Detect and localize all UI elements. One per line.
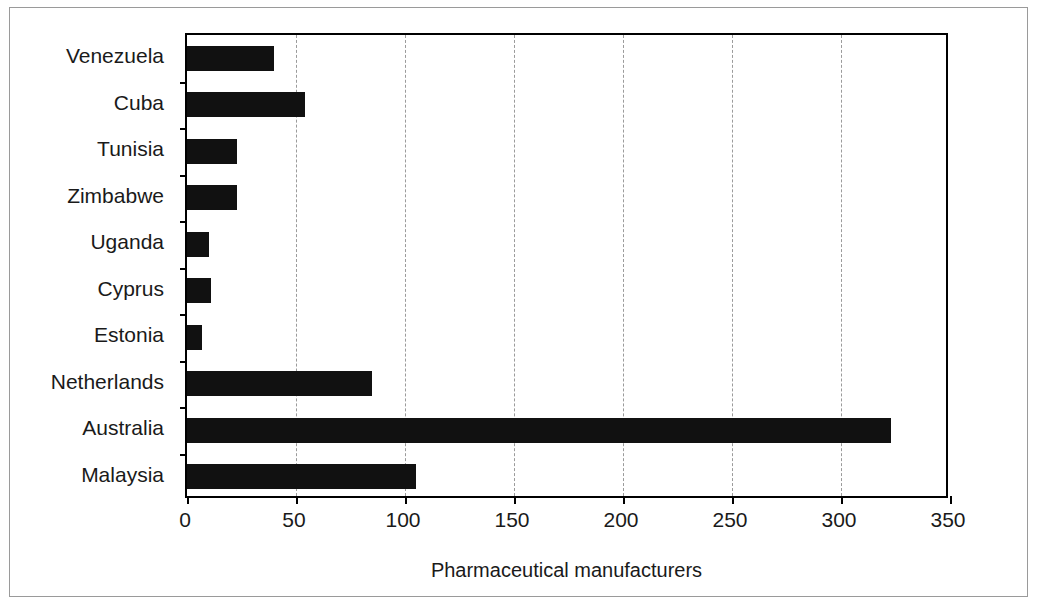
y-axis-label-tunisia: Tunisia — [97, 138, 164, 159]
y-axis-label-estonia: Estonia — [94, 324, 164, 345]
y-tick-mark-8 — [180, 407, 187, 409]
y-axis-label-uganda: Uganda — [90, 231, 164, 252]
bar-estonia — [187, 325, 202, 350]
x-tick-label-300: 300 — [821, 508, 856, 532]
bar-australia — [187, 418, 891, 443]
x-tick-label-50: 50 — [282, 508, 305, 532]
bar-malaysia — [187, 464, 416, 489]
x-tick-mark-300 — [841, 496, 843, 504]
bar-row — [187, 278, 946, 303]
x-tick-mark-350 — [950, 496, 952, 504]
y-tick-mark-6 — [180, 314, 187, 316]
x-tick-label-0: 0 — [179, 508, 191, 532]
y-axis-label-cuba: Cuba — [114, 92, 164, 113]
bar-zimbabwe — [187, 185, 237, 210]
bar-uganda — [187, 232, 209, 257]
x-tick-mark-200 — [623, 496, 625, 504]
y-tick-mark-3 — [180, 175, 187, 177]
y-tick-mark-1 — [180, 82, 187, 84]
x-tick-mark-0 — [187, 496, 189, 504]
x-tick-mark-150 — [514, 496, 516, 504]
x-tick-label-150: 150 — [494, 508, 529, 532]
x-tick-label-200: 200 — [603, 508, 638, 532]
y-axis-label-zimbabwe: Zimbabwe — [67, 185, 164, 206]
bar-netherlands — [187, 371, 372, 396]
x-tick-label-100: 100 — [385, 508, 420, 532]
y-tick-mark-9 — [180, 454, 187, 456]
x-tick-label-350: 350 — [930, 508, 965, 532]
x-axis-tick-labels: 050100150200250300350 — [185, 508, 948, 538]
x-tick-mark-50 — [296, 496, 298, 504]
bar-tunisia — [187, 139, 237, 164]
x-tick-label-250: 250 — [712, 508, 747, 532]
bar-venezuela — [187, 46, 274, 71]
bar-row — [187, 185, 946, 210]
y-axis-category-labels: VenezuelaCubaTunisiaZimbabweUgandaCyprus… — [0, 33, 176, 498]
bar-cyprus — [187, 278, 211, 303]
y-axis-label-australia: Australia — [82, 417, 164, 438]
y-tick-mark-4 — [180, 221, 187, 223]
bar-row — [187, 139, 946, 164]
x-axis-title: Pharmaceutical manufacturers — [185, 558, 948, 582]
y-axis-label-venezuela: Venezuela — [66, 45, 164, 66]
bar-row — [187, 371, 946, 396]
bar-row — [187, 464, 946, 489]
y-tick-mark-2 — [180, 128, 187, 130]
y-axis-label-cyprus: Cyprus — [97, 278, 164, 299]
x-tick-mark-250 — [732, 496, 734, 504]
bar-row — [187, 418, 946, 443]
y-tick-mark-7 — [180, 361, 187, 363]
y-axis-label-netherlands: Netherlands — [51, 371, 164, 392]
plot-area — [185, 33, 948, 498]
bar-row — [187, 46, 946, 71]
bar-row — [187, 325, 946, 350]
bar-series — [187, 35, 946, 496]
y-axis-label-malaysia: Malaysia — [81, 464, 164, 485]
bar-row — [187, 92, 946, 117]
x-tick-mark-100 — [405, 496, 407, 504]
y-tick-mark-5 — [180, 268, 187, 270]
bar-row — [187, 232, 946, 257]
bar-cuba — [187, 92, 305, 117]
chart-figure: VenezuelaCubaTunisiaZimbabweUgandaCyprus… — [0, 0, 1041, 601]
